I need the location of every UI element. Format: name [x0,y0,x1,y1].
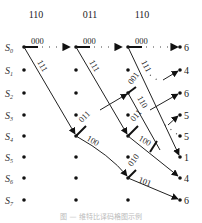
input-header-2: 011 [83,9,98,20]
state-label-s6: S6 [5,173,13,185]
metric-s1: 4 [184,65,189,76]
branch-label-111-1: 111 [35,58,50,74]
branch-label-010-col3: 010 [125,152,141,168]
branch-label-011-col3: 011 [128,107,144,123]
state-label-s0: S0 [5,42,13,54]
branch-label-111-3: 111 [139,58,154,73]
branches-col2: 011 100 [76,109,127,176]
column-1-nodes [22,45,26,202]
branch-label-011-col2: 011 [76,109,92,125]
input-header-1: 110 [29,9,44,20]
figure-caption: 图 — 维特比译码格图示例 [60,212,141,221]
state-label-s7: S7 [5,195,14,207]
branches-111: 111 111 111 [24,47,179,155]
state-labels: S0 S1 S2 S3 S4 S5 S6 S7 [5,42,14,207]
metric-s7: 6 [184,195,189,206]
branch-label-100-col2: 100 [85,133,101,148]
branch-label-000-2: 000 [83,36,96,46]
column-2-nodes [74,45,78,202]
metric-s0: 6 [184,42,189,53]
metric-s2: 6 [184,88,189,99]
trellis-diagram: 110 011 110 S0 S1 S2 S3 S4 S5 S6 S7 [0,0,202,223]
branches-col3: 001 110 011 100 010 101 [100,70,178,199]
branch-label-101-col3: 101 [137,174,152,188]
branch-label-000-3: 000 [135,36,148,46]
state-label-s4: S4 [5,131,13,143]
state-label-s5: S5 [5,152,13,164]
state-label-s3: S3 [5,110,13,122]
branch-label-001-col3: 001 [125,70,141,86]
column-4-nodes [178,45,182,202]
input-header-3: 110 [135,9,150,20]
branch-label-111-2: 111 [87,58,102,74]
state-label-s1: S1 [5,65,13,77]
path-metrics: 6 4 6 5 5 1 4 6 [184,42,189,206]
branch-label-000-1: 000 [31,36,44,46]
state-label-s2: S2 [5,88,13,100]
metric-s4: 5 [184,131,189,142]
metric-s6: 4 [184,173,189,184]
metric-s5: 1 [184,152,189,163]
branch-label-110-col3: 110 [135,94,150,110]
metric-s3: 5 [184,110,189,121]
branches-000: 000 000 000 [24,36,178,47]
branch-label-100-col3: 100 [137,133,153,148]
